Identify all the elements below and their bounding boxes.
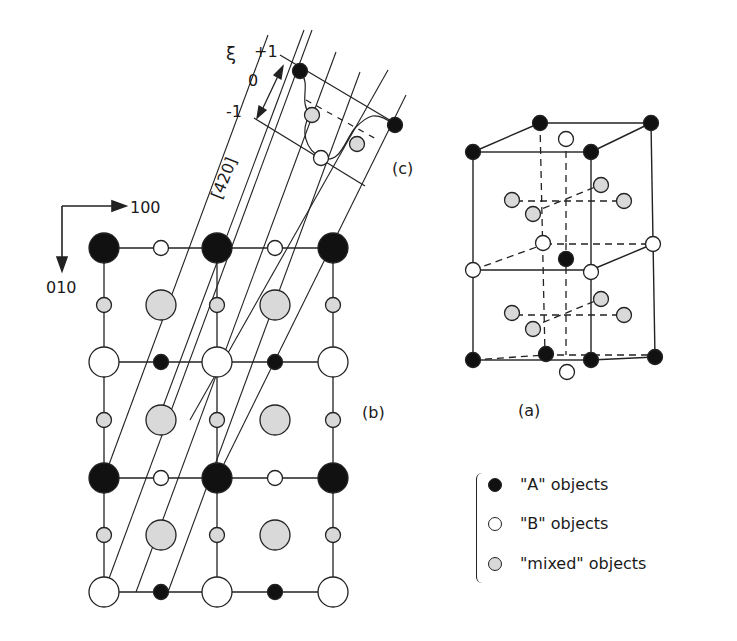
filled-circle-icon — [488, 478, 502, 492]
arrow-up-icon — [274, 66, 283, 79]
atom-b — [318, 577, 348, 607]
atom-mixed — [146, 405, 176, 435]
atom-mixed — [260, 290, 290, 320]
atom-a — [648, 350, 663, 365]
atom-a — [268, 355, 283, 370]
atom-a — [154, 355, 169, 370]
atom-a — [318, 233, 348, 263]
legend-item-mixed: "mixed" objects — [488, 554, 646, 573]
atom-mixed — [260, 405, 290, 435]
xi-double-arrow — [257, 66, 283, 118]
atom-mixed — [505, 306, 520, 321]
legend-brace — [476, 473, 485, 583]
atom-mixed — [146, 290, 176, 320]
atom-mixed — [146, 520, 176, 550]
atom-mixed — [326, 528, 341, 543]
axes-arrows — [57, 201, 126, 271]
atom-b — [202, 577, 232, 607]
atom-mixed — [617, 194, 632, 209]
arrow-down-icon — [57, 257, 67, 271]
panel-label-c: (c) — [392, 159, 413, 178]
atom-b — [154, 241, 169, 256]
legend-label: "mixed" objects — [520, 554, 646, 573]
atom-mixed — [505, 193, 520, 208]
panel-label-a: (a) — [518, 401, 540, 420]
atom-a — [202, 463, 232, 493]
xi-plus-one: +1 — [254, 42, 278, 61]
atom-a — [466, 145, 481, 160]
atom-a — [584, 353, 599, 368]
atom-mixed — [260, 520, 290, 550]
atom-mixed — [526, 322, 541, 337]
panel-a-cell — [473, 123, 655, 360]
atom-a — [293, 64, 308, 79]
atom-a — [466, 353, 481, 368]
legend-label: "A" objects — [520, 475, 608, 494]
xi-zero: 0 — [248, 71, 258, 90]
atom-a — [89, 463, 119, 493]
atom-mixed — [210, 528, 225, 543]
atom-b — [89, 347, 119, 377]
atom-a — [154, 585, 169, 600]
xi-minus-one: -1 — [226, 102, 242, 121]
atom-a — [539, 347, 554, 362]
direction-label-420: [420] — [207, 154, 241, 201]
atom-b — [268, 241, 283, 256]
atom-b — [89, 577, 119, 607]
atom-mixed — [617, 308, 632, 323]
crystal-diagram: 100 010 [420] ξ +1 0 -1 (c) (b) — [0, 0, 737, 641]
atom-mixed — [97, 413, 112, 428]
atom-b — [466, 263, 481, 278]
atom-a — [202, 233, 232, 263]
atom-mixed — [594, 178, 609, 193]
atom-b — [559, 132, 574, 147]
legend-label: "B" objects — [520, 514, 608, 533]
arrow-right-icon — [112, 201, 126, 211]
atom-mixed — [97, 528, 112, 543]
panel-a-hidden-edges — [473, 123, 655, 360]
atom-mixed — [594, 292, 609, 307]
atom-mixed — [210, 413, 225, 428]
atom-mixed — [210, 298, 225, 313]
panel-b-atoms — [89, 233, 348, 607]
open-circle-icon — [488, 517, 502, 531]
legend-item-a: "A" objects — [488, 475, 608, 494]
atom-b — [584, 265, 599, 280]
atom-a — [318, 463, 348, 493]
atom-mixed — [326, 413, 341, 428]
panel-c-atoms — [293, 64, 403, 166]
legend-item-b: "B" objects — [488, 514, 608, 533]
atom-b — [536, 236, 551, 251]
atom-b — [202, 347, 232, 377]
atom-a — [584, 145, 599, 160]
atom-b — [318, 347, 348, 377]
atom-mixed — [326, 298, 341, 313]
atom-a — [533, 116, 548, 131]
atom-b — [560, 365, 575, 380]
atom-b — [314, 151, 329, 166]
axis-label-010: 010 — [46, 278, 77, 297]
atom-mixed — [350, 137, 365, 152]
atom-a — [268, 585, 283, 600]
atom-mixed — [97, 298, 112, 313]
xi-symbol: ξ — [226, 43, 236, 64]
panel-label-b: (b) — [362, 403, 385, 422]
atom-a — [388, 118, 403, 133]
gray-circle-icon — [488, 557, 502, 571]
arrow-down-icon — [257, 106, 266, 118]
atom-a — [644, 116, 659, 131]
axis-label-100: 100 — [130, 198, 161, 217]
atom-b — [154, 471, 169, 486]
atom-mixed — [305, 108, 320, 123]
atom-a — [559, 252, 574, 267]
atom-a — [89, 233, 119, 263]
atom-b — [268, 471, 283, 486]
atom-b — [646, 237, 661, 252]
panel-a-atoms — [466, 116, 663, 380]
atom-mixed — [526, 207, 541, 222]
